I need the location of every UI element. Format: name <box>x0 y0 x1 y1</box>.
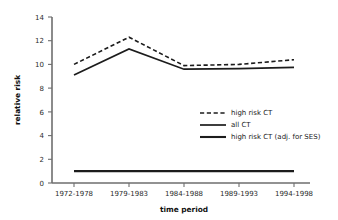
x-tick-label-1984-1988: 1984-1988 <box>165 190 203 198</box>
y-tick-label-0: 0 <box>40 180 44 188</box>
x-tick-label-1989-1993: 1989-1993 <box>220 190 258 198</box>
y-tick-label-12: 12 <box>35 37 44 45</box>
legend-label-all-ct: all CT <box>231 121 251 129</box>
chart-plot-area: 0 2 4 6 8 10 12 14 1972-1978 1979-1983 1… <box>0 0 338 220</box>
relative-risk-line-chart: 0 2 4 6 8 10 12 14 1972-1978 1979-1983 1… <box>0 0 338 220</box>
y-tick-label-4: 4 <box>40 132 45 140</box>
y-tick-label-2: 2 <box>40 156 44 164</box>
chart-legend: high risk CT all CT high risk CT (adj. f… <box>200 109 321 141</box>
legend-label-high-risk-ct-adj-ses: high risk CT (adj. for SES) <box>231 133 321 141</box>
legend-label-high-risk-ct: high risk CT <box>231 109 273 117</box>
series-line-high-risk-ct <box>74 37 294 65</box>
x-tick-label-1994-1998: 1994-1998 <box>275 190 313 198</box>
x-axis-title: time period <box>160 205 208 214</box>
y-tick-label-14: 14 <box>35 14 44 22</box>
y-axis-title: relative risk <box>13 74 22 125</box>
y-tick-label-8: 8 <box>40 85 44 93</box>
x-tick-label-1979-1983: 1979-1983 <box>110 190 148 198</box>
y-tick-label-6: 6 <box>40 109 45 117</box>
y-tick-label-10: 10 <box>35 61 44 69</box>
x-tick-label-1972-1978: 1972-1978 <box>55 190 93 198</box>
